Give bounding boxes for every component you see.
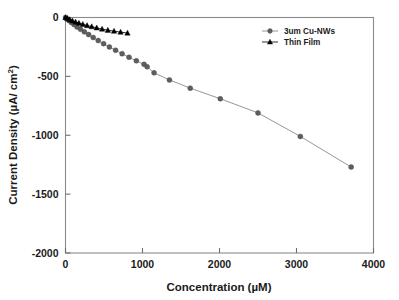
legend-label: Thin Film xyxy=(284,38,320,47)
data-point xyxy=(218,96,223,101)
data-point xyxy=(152,70,157,75)
x-tick-label: 0 xyxy=(63,258,69,270)
data-point xyxy=(86,32,91,37)
data-point xyxy=(167,77,172,82)
y-axis-title: Current Density (µA/ cm2) xyxy=(6,65,19,205)
x-tick-label: 2000 xyxy=(208,258,232,270)
svg-text:Current Density (µA/ cm2): Current Density (µA/ cm2) xyxy=(6,65,19,205)
x-axis-title: Concentration (µM) xyxy=(166,281,271,293)
chart-figure: 01000200030004000 0-500-1000-1500-2000 3… xyxy=(0,0,399,300)
x-tick-label: 3000 xyxy=(285,258,309,270)
legend-label: 3um Cu-NWs xyxy=(284,27,335,36)
data-point xyxy=(145,64,150,69)
chart-legend: 3um Cu-NWsThin Film xyxy=(262,27,335,47)
data-point xyxy=(120,51,125,56)
x-tick-label: 1000 xyxy=(131,258,155,270)
x-axis-ticks xyxy=(66,248,374,253)
y-tick-label: -1000 xyxy=(32,129,59,141)
legend-entry-2[interactable]: Thin Film xyxy=(262,38,320,47)
data-point xyxy=(127,55,132,60)
data-point xyxy=(349,165,354,170)
data-point xyxy=(113,48,118,53)
x-tick-label: 4000 xyxy=(362,258,386,270)
data-point xyxy=(134,58,139,63)
data-point xyxy=(107,44,112,49)
y-axis-ticks xyxy=(66,18,71,254)
data-point xyxy=(91,35,96,40)
data-point xyxy=(256,110,261,115)
data-point xyxy=(96,38,101,43)
data-point xyxy=(101,41,106,46)
y-axis-tick-labels: 0-500-1000-1500-2000 xyxy=(32,11,59,258)
x-axis-tick-labels: 01000200030004000 xyxy=(63,258,386,270)
legend-marker-circle-icon xyxy=(268,29,273,34)
chart-canvas: 01000200030004000 0-500-1000-1500-2000 3… xyxy=(0,0,399,300)
data-point xyxy=(188,86,193,91)
y-tick-label: 0 xyxy=(53,11,59,23)
plot-frame xyxy=(66,18,374,254)
y-tick-label: -2000 xyxy=(32,247,59,259)
legend-entry-1[interactable]: 3um Cu-NWs xyxy=(262,27,335,36)
y-tick-label: -500 xyxy=(37,70,58,82)
y-tick-label: -1500 xyxy=(32,188,59,200)
data-point xyxy=(298,134,303,139)
